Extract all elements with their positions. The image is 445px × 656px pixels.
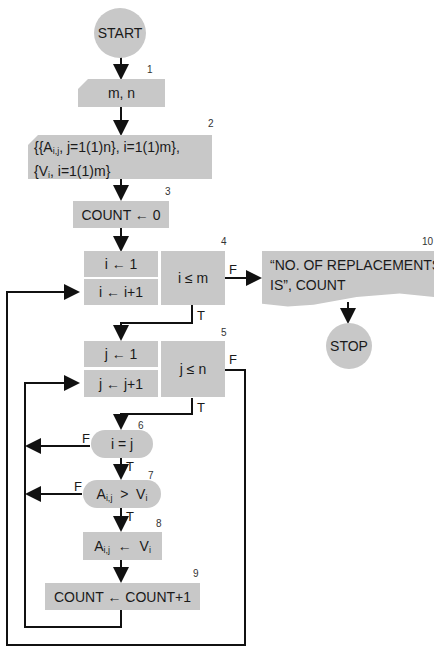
loop-5-test: j ≤ n (161, 341, 225, 397)
node-9-number: 9 (193, 568, 199, 579)
process-node-3: COUNT ← 0 (73, 201, 169, 228)
node-1-text: m, n (108, 85, 135, 101)
input-node-1: m, n (78, 79, 165, 107)
node-8-number: 8 (156, 518, 162, 529)
loop-4-init: i ← 1 (84, 251, 158, 277)
loop-4-increment: i ← i+1 (84, 279, 158, 305)
loop-4-test: i ≤ m (161, 251, 225, 305)
input-node-2: {{Ai,j, j=1(1)n}, i=1(1)m}, {Vi, i=1(1)m… (28, 135, 212, 179)
node-4-false-label: F (229, 262, 237, 277)
node-3-text: COUNT ← 0 (81, 207, 160, 223)
node-6-number: 6 (138, 420, 144, 431)
start-terminal: START (94, 8, 146, 58)
stop-terminal: STOP (326, 323, 372, 369)
node-5-number: 5 (221, 327, 227, 338)
node-5-false-label: F (229, 352, 237, 367)
node-7-number: 7 (148, 470, 154, 481)
node-6-false-label: F (82, 431, 90, 446)
node-4-true-label: T (197, 308, 205, 323)
node-7-true-label: T (126, 509, 134, 524)
node-5-true-label: T (197, 400, 205, 415)
node-1-number: 1 (147, 64, 153, 75)
stop-label: STOP (330, 338, 368, 354)
start-label: START (98, 25, 143, 41)
node-2-line-1: {{Ai,j, j=1(1)n}, i=1(1)m}, (34, 137, 180, 161)
node-2-number: 2 (208, 118, 214, 129)
node-7-false-label: F (74, 479, 82, 494)
process-node-8: Ai,j ← Vi (83, 532, 162, 560)
node-4-number: 4 (221, 236, 227, 247)
decision-node-6: i = j (91, 430, 153, 458)
node-6-true-label: T (126, 459, 134, 474)
loop-5-init: j ← 1 (84, 341, 158, 367)
loop-5-increment: j ← j+1 (84, 370, 158, 397)
decision-node-7: Ai,j > Vi (83, 480, 161, 508)
node-10-number: 10 (422, 236, 433, 247)
process-node-9: COUNT ← COUNT+1 (45, 583, 200, 610)
node-10-line-2: IS”, COUNT (270, 275, 345, 295)
node-10-line-1: “NO. OF REPLACEMENTS (270, 255, 441, 275)
node-3-number: 3 (165, 186, 171, 197)
